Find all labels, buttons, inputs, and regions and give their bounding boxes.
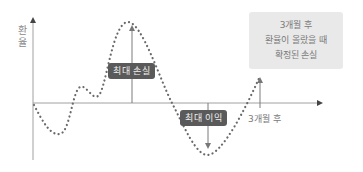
note-line-2: 환율이 올랐을 때 bbox=[249, 33, 343, 48]
y-axis-label: 환 율 bbox=[16, 25, 28, 49]
max-loss-tag: 최대 손실 bbox=[108, 63, 155, 79]
three-month-label: 3개월 후 bbox=[248, 112, 281, 125]
exchange-rate-curve bbox=[34, 22, 260, 155]
note-box: 3개월 후 환율이 올랐을 때 확정된 손실 bbox=[249, 12, 343, 69]
y-axis-label-char-2: 율 bbox=[16, 37, 28, 49]
note-line-3: 확정된 손실 bbox=[249, 48, 343, 63]
max-gain-tag: 최대 이익 bbox=[180, 110, 227, 126]
note-line-1: 3개월 후 bbox=[249, 18, 343, 33]
y-axis-label-char-1: 환 bbox=[16, 25, 28, 37]
